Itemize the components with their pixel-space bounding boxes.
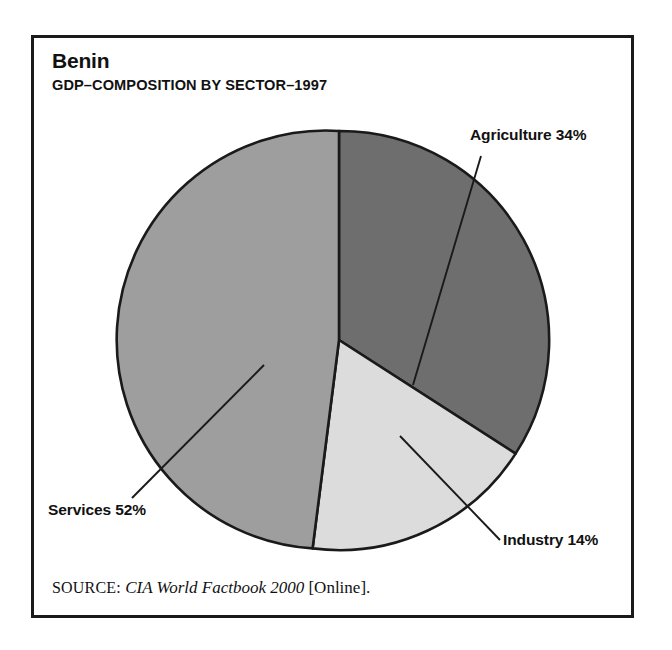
- page-title: Benin: [52, 50, 345, 71]
- source-suffix: [Online].: [308, 578, 370, 597]
- pie-label-industry: Industry 14%: [503, 531, 598, 549]
- chart-subtitle: GDP–COMPOSITION BY SECTOR–1997: [52, 77, 327, 93]
- source-label: SOURCE:: [52, 579, 121, 596]
- figure-root: Benin GDP–COMPOSITION BY SECTOR–1997 Agr…: [0, 0, 672, 650]
- pie-label-agriculture: Agriculture 34%: [470, 126, 587, 144]
- source-note: SOURCE: CIA World Factbook 2000 [Online]…: [52, 578, 370, 598]
- source-title: CIA World Factbook 2000: [125, 578, 304, 597]
- title-block: Benin GDP–COMPOSITION BY SECTOR–1997: [52, 50, 345, 93]
- pie-label-services: Services 52%: [48, 501, 146, 519]
